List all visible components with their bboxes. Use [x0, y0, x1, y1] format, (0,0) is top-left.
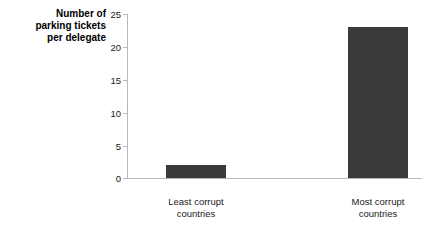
y-tick-mark [123, 47, 127, 48]
x-axis-line [127, 178, 422, 179]
y-tick-label: 0 [95, 174, 121, 184]
y-tick-mark [123, 14, 127, 15]
y-tick-mark [123, 80, 127, 81]
y-tick-label: 20 [95, 43, 121, 53]
y-tick-label: 5 [95, 142, 121, 152]
y-tick-mark [123, 146, 127, 147]
bar-least-corrupt [166, 165, 226, 178]
x-category-label: Most corrupt countries [318, 196, 429, 220]
y-tick-label: 10 [95, 109, 121, 119]
bar-chart: Number of parking tickets per delegate 2… [0, 0, 429, 227]
y-tick-label: 15 [95, 76, 121, 86]
x-category-label: Least corrupt countries [136, 196, 256, 220]
y-tick-mark [123, 113, 127, 114]
plot-area: 25 20 15 10 5 0 Least corrupt countries … [0, 0, 429, 227]
y-tick-label: 25 [95, 10, 121, 20]
y-axis-line [127, 14, 128, 178]
bar-most-corrupt [348, 27, 408, 178]
y-tick-mark [123, 178, 127, 179]
